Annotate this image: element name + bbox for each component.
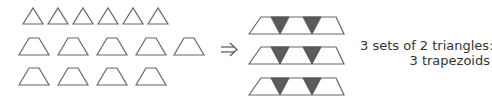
triangle-shape (23, 8, 43, 24)
shaded-triangle (303, 78, 321, 95)
composite-trapezoid (249, 78, 344, 95)
triangle-shape (98, 8, 118, 24)
trapezoid-row (19, 68, 166, 85)
caption: 3 sets of 2 triangles: 3 trapezoids (360, 38, 490, 68)
shaded-triangle (303, 17, 321, 34)
triangle-shape (73, 8, 93, 24)
shaded-triangle (271, 47, 289, 64)
triangle-shape (48, 8, 68, 24)
composite-trapezoid (249, 17, 344, 34)
trapezoid-row (19, 38, 204, 55)
trapezoid-shape (58, 68, 88, 85)
triangle-shape (123, 8, 143, 24)
trapezoid-shape (19, 68, 49, 85)
triangle-shape (148, 8, 168, 24)
composite-trapezoid (249, 47, 344, 64)
trapezoid-shape (97, 38, 127, 55)
trapezoid-shape (174, 38, 204, 55)
trapezoid-shape (136, 68, 166, 85)
trapezoid-shape (97, 68, 127, 85)
shaded-triangle (271, 17, 289, 34)
shaded-triangle (271, 78, 289, 95)
arrow-icon (221, 43, 237, 56)
caption-line-2: 3 trapezoids (360, 53, 490, 68)
trapezoid-shape (58, 38, 88, 55)
trapezoid-shape (136, 38, 166, 55)
trapezoid-shape (19, 38, 49, 55)
caption-line-1: 3 sets of 2 triangles: (360, 38, 490, 53)
triangle-row (23, 8, 168, 24)
shaded-triangle (303, 47, 321, 64)
